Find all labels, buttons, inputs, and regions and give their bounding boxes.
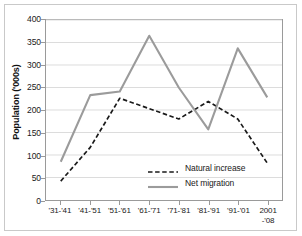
x-tick-label-line: 2001 xyxy=(259,206,276,216)
x-tick-label-line: '91-'01 xyxy=(227,206,250,216)
x-tick-mark xyxy=(119,201,120,205)
x-tick-label-line: '81-'91 xyxy=(197,206,220,216)
x-tick-label: '71-'81 xyxy=(167,206,190,216)
x-tick-label-line: '71-'81 xyxy=(167,206,190,216)
x-tick-mark xyxy=(268,201,269,205)
series-line-net-migration xyxy=(61,36,267,162)
population-line-chart-figure: Population ('000s) 050100150200250300350… xyxy=(0,0,302,236)
x-tick-label: '81-'91 xyxy=(197,206,220,216)
x-tick-label: 2001-'08 xyxy=(259,206,276,225)
legend-item: Net migration xyxy=(148,175,273,190)
x-tick-label: '31-'41 xyxy=(48,206,71,216)
x-tick-label-line: '31-'41 xyxy=(48,206,71,216)
x-tick-mark xyxy=(238,201,239,205)
x-tick-label: '51-'61 xyxy=(108,206,131,216)
x-tick-mark xyxy=(209,201,210,205)
x-tick-mark xyxy=(149,201,150,205)
x-tick-label: '61-'71 xyxy=(138,206,161,216)
y-tick-label: 250 xyxy=(27,82,41,92)
x-tick-label-line: -'08 xyxy=(259,216,276,226)
legend-label: Natural increase xyxy=(185,163,245,173)
y-tick-label: 100 xyxy=(27,151,41,161)
chart-legend: Natural increaseNet migration xyxy=(148,160,273,190)
x-tick-mark xyxy=(179,201,180,205)
y-tick-label: 50 xyxy=(32,173,41,183)
x-tick-label: '91-'01 xyxy=(227,206,250,216)
x-tick-label: '41-'51 xyxy=(78,206,101,216)
x-tick-mark xyxy=(60,201,61,205)
x-axis-tick-marks xyxy=(45,201,283,205)
legend-swatch-solid xyxy=(148,178,178,188)
x-tick-label-line: '61-'71 xyxy=(138,206,161,216)
y-tick-label: 400 xyxy=(27,14,41,24)
y-tick-label: 350 xyxy=(27,37,41,47)
y-tick-label: 200 xyxy=(27,105,41,115)
y-tick-label: 300 xyxy=(27,60,41,70)
x-axis-tick-labels: '31-'41'41-'51'51-'61'61-'71'71-'81'81-'… xyxy=(45,206,283,232)
legend-swatch-dashed xyxy=(148,163,178,173)
x-tick-label-line: '41-'51 xyxy=(78,206,101,216)
y-tick-label: 150 xyxy=(27,128,41,138)
legend-label: Net migration xyxy=(185,178,234,188)
y-axis-tick-labels: 050100150200250300350400 xyxy=(14,19,41,201)
legend-item: Natural increase xyxy=(148,160,273,175)
x-tick-label-line: '51-'61 xyxy=(108,206,131,216)
x-tick-mark xyxy=(90,201,91,205)
